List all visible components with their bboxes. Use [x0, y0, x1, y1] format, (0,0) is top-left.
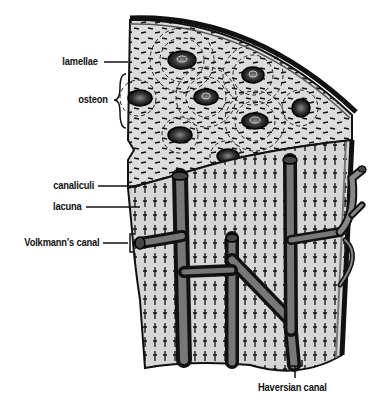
label-lacuna: lacuna: [53, 200, 82, 212]
label-haversian-canal: Haversian canal: [258, 381, 327, 393]
label-lamellae: lamellae: [62, 55, 98, 67]
canal-opening: [283, 156, 297, 164]
label-volkmanns-canal: Volkmann's canal: [24, 236, 99, 248]
osteon-brace: [114, 74, 126, 128]
canal-opening: [226, 234, 238, 242]
label-osteon: osteon: [78, 93, 108, 105]
label-canaliculi: canaliculi: [53, 179, 94, 191]
canal-opening: [172, 172, 188, 180]
canal-opening: [135, 237, 145, 249]
